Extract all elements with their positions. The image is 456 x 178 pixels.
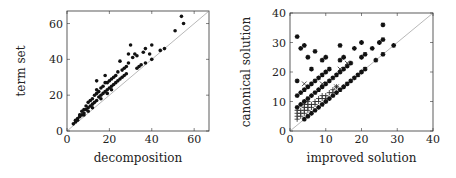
data-point — [99, 97, 103, 101]
data-point — [158, 49, 162, 53]
data-point — [133, 52, 137, 56]
x-tick-label: 0 — [287, 133, 294, 146]
y-tick-label: 10 — [272, 96, 286, 109]
data-point — [144, 47, 148, 51]
data-point — [359, 40, 364, 45]
data-point — [86, 101, 90, 105]
series-star — [295, 22, 396, 121]
x-tick-label: 10 — [319, 133, 333, 146]
chart-decomposition-vs-term-set: 02040600204060decompositionterm set — [14, 11, 209, 165]
data-point — [370, 46, 375, 51]
y-axis-label: term set — [14, 45, 28, 96]
data-point — [141, 50, 145, 54]
data-point — [150, 58, 154, 62]
data-point — [341, 55, 346, 60]
data-point — [84, 104, 88, 108]
data-point — [86, 109, 90, 113]
data-point — [110, 88, 114, 92]
data-point — [295, 78, 300, 83]
data-point — [323, 55, 328, 60]
data-point — [338, 43, 343, 48]
series-instances — [72, 15, 186, 126]
data-point — [381, 52, 386, 57]
data-point — [74, 118, 78, 122]
y-axis-label: canonical solution — [239, 16, 253, 127]
x-tick-label: 40 — [426, 133, 440, 146]
y-tick-label: 20 — [49, 89, 63, 102]
x-tick-label: 20 — [102, 133, 116, 146]
data-point — [93, 93, 97, 97]
data-point — [302, 43, 307, 48]
data-point — [163, 47, 167, 51]
data-point — [295, 34, 300, 39]
data-point — [95, 79, 99, 83]
data-point — [80, 109, 84, 113]
y-tick-label: 60 — [49, 18, 63, 31]
data-point — [150, 43, 154, 47]
data-point — [148, 52, 152, 56]
data-point — [173, 29, 177, 33]
data-point — [129, 43, 133, 47]
y-tick-label: 20 — [272, 66, 286, 79]
x-tick-label: 60 — [187, 133, 201, 146]
data-point — [381, 37, 386, 42]
data-point — [99, 86, 103, 90]
data-point — [363, 52, 368, 57]
chart-improved-vs-canonical: 010203040010203040improved solutioncanon… — [239, 7, 440, 165]
data-point — [363, 67, 368, 72]
x-axis-label: improved solution — [307, 151, 417, 165]
data-point — [120, 68, 124, 72]
data-point — [313, 49, 318, 54]
data-point — [135, 67, 139, 71]
data-point — [82, 113, 86, 117]
data-point — [305, 55, 310, 60]
x-tick-label: 40 — [145, 133, 159, 146]
data-point — [120, 75, 124, 79]
y-tick-label: 0 — [279, 125, 286, 138]
data-point — [309, 67, 314, 72]
x-tick-label: 0 — [64, 133, 71, 146]
y-tick-label: 40 — [272, 7, 286, 20]
x-axis-label: decomposition — [94, 151, 183, 165]
data-point — [302, 82, 307, 87]
data-point — [103, 74, 107, 78]
y-tick-label: 30 — [272, 37, 286, 50]
x-tick-label: 30 — [390, 133, 404, 146]
y-tick-label: 0 — [56, 125, 63, 138]
data-point — [352, 46, 357, 51]
data-point — [105, 92, 109, 96]
data-point — [95, 88, 99, 92]
data-point — [127, 61, 131, 65]
data-point — [103, 81, 107, 85]
data-point — [182, 22, 186, 26]
x-tick-label: 20 — [355, 133, 369, 146]
data-point — [72, 122, 76, 126]
data-point — [131, 56, 135, 60]
charts-canvas: 02040600204060decompositionterm set 0102… — [0, 0, 456, 178]
data-point — [391, 43, 396, 48]
data-point — [118, 59, 122, 63]
data-point — [381, 22, 386, 27]
data-point — [91, 106, 95, 110]
data-point — [127, 52, 131, 56]
data-point — [180, 15, 184, 19]
data-point — [116, 70, 120, 74]
y-tick-label: 40 — [49, 53, 63, 66]
data-point — [144, 61, 148, 65]
data-point — [373, 58, 378, 63]
data-point — [327, 67, 332, 72]
